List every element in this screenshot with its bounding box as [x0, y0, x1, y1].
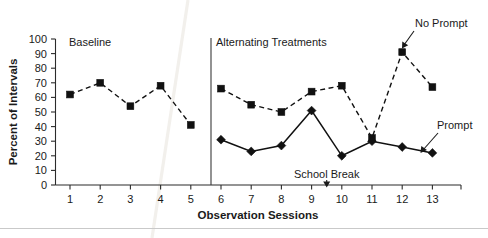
data-point-s12	[399, 49, 406, 56]
x-tick-label-12: 12	[396, 193, 408, 205]
data-point-s6	[218, 85, 225, 92]
school-break-label: School Break	[294, 168, 360, 180]
data-point-d7	[247, 147, 256, 156]
y-tick-label-20: 20	[35, 150, 47, 162]
x-tick-label-1: 1	[67, 193, 73, 205]
x-axis: 1 2 3 4 5 6 7 8 9 10 11 12 13 Observatio…	[56, 185, 462, 221]
data-point-s7	[248, 101, 255, 108]
data-point-s9	[308, 88, 315, 95]
x-tick-label-7: 7	[248, 193, 254, 205]
data-point-d12	[398, 143, 407, 152]
data-point-s2	[97, 79, 104, 86]
x-tick-label-2: 2	[97, 193, 103, 205]
x-tick-label-10: 10	[336, 193, 348, 205]
x-tick-label-11: 11	[366, 193, 377, 205]
x-tick-label-5: 5	[188, 193, 194, 205]
x-tick-label-13: 13	[426, 193, 438, 205]
y-tick-label-10: 10	[35, 164, 47, 176]
y-axis-title: Percent of Intervals	[7, 59, 19, 166]
no-prompt-line	[221, 52, 432, 138]
x-tick-label-8: 8	[278, 193, 284, 205]
data-point-s13	[429, 84, 436, 91]
y-tick-label-50: 50	[35, 106, 47, 118]
callout-no-prompt: No Prompt	[402, 17, 468, 49]
y-tick-label-30: 30	[35, 135, 47, 147]
callout-prompt-label: Prompt	[437, 119, 472, 131]
data-point-s10	[338, 82, 345, 89]
y-tick-label-0: 0	[41, 179, 47, 191]
y-tick-label-40: 40	[35, 121, 47, 133]
chart-canvas: 100 90 80 70 60 50 40 30 20 10 0 Percent…	[0, 0, 488, 238]
data-point-s1	[67, 91, 74, 98]
phase-label-baseline: Baseline	[69, 36, 111, 48]
y-tick-label-90: 90	[35, 48, 47, 60]
phase-label-treatment: Alternating Treatments	[216, 36, 327, 48]
callout-no-prompt-leader	[404, 31, 414, 45]
y-axis: 100 90 80 70 60 50 40 30 20 10 0 Percent…	[7, 33, 56, 191]
data-point-s5	[187, 122, 194, 129]
data-point-s8	[278, 109, 285, 116]
x-tick-label-4: 4	[158, 193, 164, 205]
x-axis-title: Observation Sessions	[198, 209, 319, 221]
series-treatment-prompt	[217, 106, 437, 160]
y-tick-label-60: 60	[35, 91, 47, 103]
x-tick-label-6: 6	[218, 193, 224, 205]
y-tick-marks	[51, 39, 56, 185]
series-treatment-no-prompt	[218, 49, 436, 142]
data-point-s3	[127, 103, 134, 110]
x-tick-label-9: 9	[309, 193, 315, 205]
data-point-d13	[428, 149, 437, 158]
x-tick-marks	[70, 185, 461, 190]
callout-prompt: Prompt	[421, 119, 473, 153]
chart-figure: 100 90 80 70 60 50 40 30 20 10 0 Percent…	[0, 0, 488, 238]
data-point-d6	[217, 135, 226, 144]
callout-no-prompt-label: No Prompt	[415, 17, 468, 29]
y-tick-label-80: 80	[35, 62, 47, 74]
data-point-s4	[157, 82, 164, 89]
x-tick-label-3: 3	[127, 193, 133, 205]
y-tick-label-70: 70	[35, 77, 47, 89]
y-tick-label-100: 100	[29, 33, 47, 45]
callout-prompt-leader	[423, 133, 438, 150]
data-point-d10	[337, 151, 346, 160]
